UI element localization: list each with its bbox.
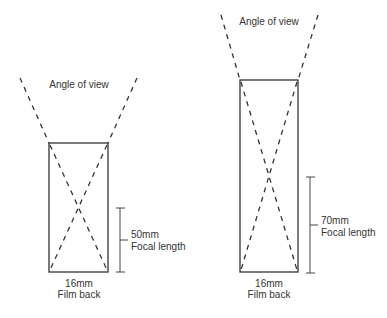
angle-of-view-label: Angle of view [49, 79, 109, 90]
film-back-value: 16mm [255, 278, 283, 289]
diagram-50mm: Angle of view 50mm Focal length 16mm Fil… [20, 78, 185, 300]
focal-length-label: Focal length [321, 227, 375, 238]
focal-length-bracket [306, 177, 318, 273]
left-view-ray [221, 15, 240, 80]
focal-length-bracket [116, 208, 128, 272]
film-back-label: Film back [248, 289, 292, 300]
left-view-ray [20, 78, 49, 143]
camera-body-rect [240, 80, 298, 272]
film-back-label: Film back [58, 289, 102, 300]
right-view-ray [108, 78, 137, 143]
focal-length-diagram: Angle of view 50mm Focal length 16mm Fil… [0, 0, 387, 318]
camera-body-rect [49, 143, 108, 272]
diagram-70mm: Angle of view 70mm Focal length 16mm Fil… [221, 15, 375, 300]
focal-length-value: 70mm [321, 215, 349, 226]
angle-of-view-label: Angle of view [239, 16, 299, 27]
film-back-value: 16mm [65, 278, 93, 289]
right-view-ray [298, 15, 318, 80]
focal-length-value: 50mm [131, 229, 159, 240]
cross-ray-b [241, 82, 297, 270]
cross-ray-a [241, 82, 297, 270]
focal-length-label: Focal length [131, 241, 185, 252]
